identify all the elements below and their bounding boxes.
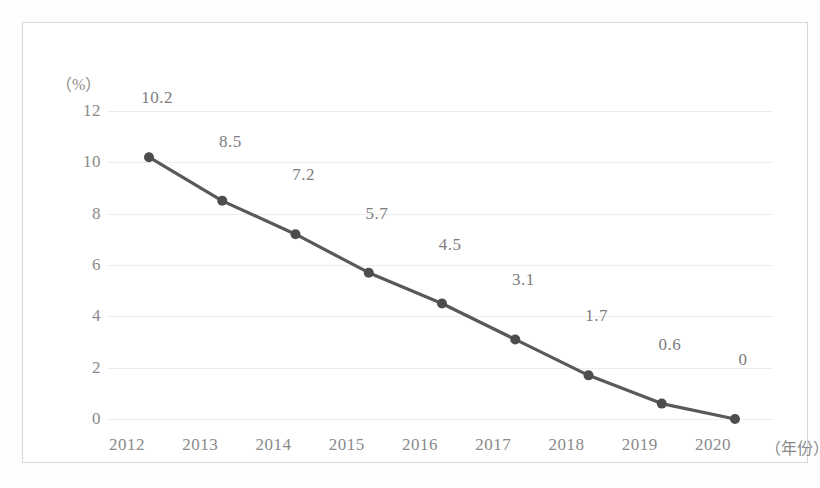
- data-point-marker: [437, 299, 447, 309]
- data-point-label: 0: [739, 350, 748, 370]
- x-axis-tick-label: 2020: [695, 435, 731, 455]
- data-point-label: 5.7: [365, 204, 388, 224]
- x-axis-tick-label: 2019: [622, 435, 658, 455]
- chart-screenshot: （%） 121086420 10.28.57.25.74.53.11.70.60…: [0, 0, 820, 488]
- data-point-marker: [730, 414, 740, 424]
- data-point-marker: [584, 370, 594, 380]
- x-axis-tick-label: 2015: [329, 435, 365, 455]
- x-axis-tick-label: 2018: [549, 435, 585, 455]
- data-point-marker: [144, 152, 154, 162]
- x-axis-tick-label: 2013: [182, 435, 218, 455]
- data-point-label: 8.5: [219, 132, 242, 152]
- data-point-marker: [657, 399, 667, 409]
- data-point-marker: [291, 229, 301, 239]
- data-point-label: 0.6: [658, 335, 681, 355]
- chart-frame: （%） 121086420 10.28.57.25.74.53.11.70.60…: [22, 22, 808, 463]
- series-line: [149, 157, 735, 419]
- data-point-marker: [510, 334, 520, 344]
- x-axis-tick-label: 2014: [256, 435, 292, 455]
- data-point-label: 1.7: [585, 306, 608, 326]
- data-point-marker: [217, 196, 227, 206]
- x-axis-tick-labels: 201220132014201520162017201820192020: [23, 435, 820, 463]
- series-markers: [144, 152, 740, 424]
- x-axis-tick-label: 2016: [402, 435, 438, 455]
- data-point-label: 3.1: [512, 270, 535, 290]
- data-point-label: 4.5: [439, 235, 462, 255]
- x-axis-name-label: （年份）: [765, 435, 820, 459]
- data-point-marker: [364, 268, 374, 278]
- data-point-label: 7.2: [292, 165, 315, 185]
- x-axis-tick-label: 2012: [109, 435, 145, 455]
- data-point-label: 10.2: [141, 88, 173, 108]
- x-axis-tick-label: 2017: [475, 435, 511, 455]
